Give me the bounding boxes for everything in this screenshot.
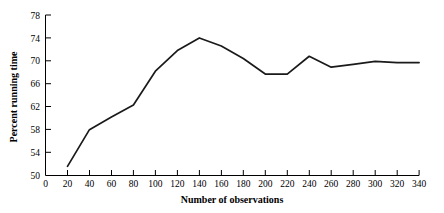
x-tick-label: 220	[280, 179, 295, 189]
x-tick-label: 200	[258, 179, 273, 189]
x-tick-label: 40	[85, 179, 95, 189]
x-tick-labels: 0 20 40 60 80 100 120 140 160 180 200 22…	[43, 179, 426, 189]
x-tick-label: 260	[324, 179, 339, 189]
y-tick-label: 70	[31, 56, 41, 66]
x-tick-label: 280	[346, 179, 361, 189]
x-tick-label: 100	[148, 179, 163, 189]
y-tick-label: 50	[31, 171, 41, 181]
x-tick-label: 120	[170, 179, 185, 189]
x-tick-label: 320	[390, 179, 405, 189]
x-tick-label: 300	[368, 179, 383, 189]
x-tick-label: 140	[192, 179, 207, 189]
y-tick-label: 74	[31, 34, 41, 44]
x-tick-marks	[68, 170, 420, 176]
x-tick-label: 240	[302, 179, 317, 189]
line-chart-plot: Percent running time 78 74 70 66 62 58 5…	[0, 0, 444, 213]
x-tick-label: 160	[214, 179, 229, 189]
y-tick-label: 62	[31, 102, 41, 112]
y-tick-label: 66	[31, 79, 41, 89]
y-axis-title: Percent running time	[8, 51, 19, 142]
y-tick-label: 54	[31, 148, 41, 158]
x-tick-label: 180	[236, 179, 251, 189]
y-tick-label: 58	[31, 125, 41, 135]
y-tick-marks	[46, 15, 52, 152]
data-series-line	[67, 38, 419, 166]
x-axis-title: Number of observations	[181, 194, 284, 205]
x-tick-label: 80	[129, 179, 139, 189]
x-tick-label: 0	[43, 179, 48, 189]
y-tick-labels: 78 74 70 66 62 58 54 50	[31, 11, 41, 181]
y-tick-label: 78	[31, 11, 41, 21]
x-tick-label: 20	[63, 179, 73, 189]
chart-figure: Percent running time 78 74 70 66 62 58 5…	[0, 0, 444, 213]
x-tick-label: 60	[107, 179, 117, 189]
x-tick-label: 340	[412, 179, 427, 189]
